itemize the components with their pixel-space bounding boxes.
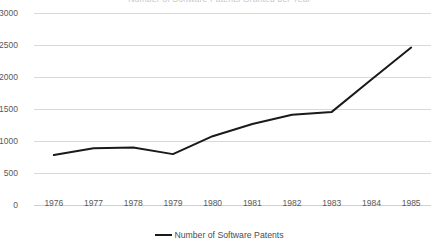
legend-line-swatch-icon <box>155 234 172 236</box>
line-chart: Number of Software Patents Granted per Y… <box>0 0 439 246</box>
x-axis-tick-1976: 1976 <box>34 198 74 208</box>
y-axis-tick-1500: 1500 <box>0 105 18 114</box>
chart-legend: Number of Software Patents <box>0 228 439 242</box>
chart-title: Number of Software Patents Granted per Y… <box>0 0 439 2</box>
y-axis-tick-0: 0 <box>0 201 18 210</box>
y-axis-tick-2000: 2000 <box>0 73 18 82</box>
x-axis-tick-1983: 1983 <box>312 198 352 208</box>
x-axis-tick-1979: 1979 <box>153 198 193 208</box>
x-axis-tick-1980: 1980 <box>193 198 233 208</box>
series-line-number-of-software-patents <box>34 13 431 205</box>
y-axis-tick-2500: 2500 <box>0 41 18 50</box>
x-axis-tick-1985: 1985 <box>391 198 431 208</box>
y-axis-tick-500: 500 <box>0 169 18 178</box>
x-axis-tick-1982: 1982 <box>272 198 312 208</box>
plot-area: 050010001500200025003000 <box>34 13 431 205</box>
x-axis-tick-1978: 1978 <box>113 198 153 208</box>
x-axis-tick-1977: 1977 <box>74 198 114 208</box>
y-axis-tick-1000: 1000 <box>0 137 18 146</box>
legend-label: Number of Software Patents <box>174 230 283 240</box>
x-axis-tick-1981: 1981 <box>232 198 272 208</box>
y-axis-tick-3000: 3000 <box>0 9 18 18</box>
x-axis-tick-1984: 1984 <box>351 198 391 208</box>
